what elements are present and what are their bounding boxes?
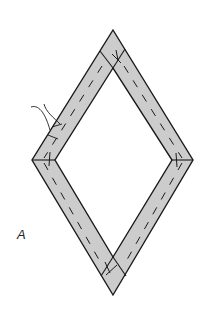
frame-strips: [32, 30, 193, 295]
stitching-lines: [44, 66, 182, 265]
corner-cross-marks: [49, 50, 177, 275]
figure-label: A: [17, 227, 26, 242]
diamond-frame-diagram: A: [0, 0, 216, 314]
